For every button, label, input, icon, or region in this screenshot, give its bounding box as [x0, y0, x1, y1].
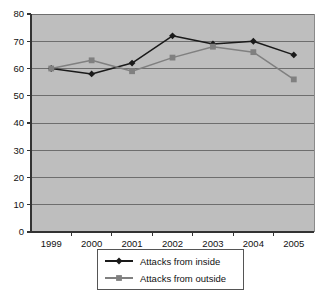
- legend: Attacks from insideAttacks from outside: [97, 249, 243, 289]
- x-tick-label-2002: 2002: [162, 238, 183, 249]
- y-tick-label-0: 0: [19, 226, 24, 237]
- y-tick-label-10: 10: [13, 199, 24, 210]
- data-point-2-2003: [210, 44, 216, 50]
- data-point-2-2004: [250, 49, 256, 55]
- line-chart: 0102030405060708019992000200120022003200…: [0, 0, 323, 293]
- data-point-2-2002: [170, 55, 176, 61]
- y-tick-label-70: 70: [13, 36, 24, 47]
- chart-canvas: 0102030405060708019992000200120022003200…: [0, 0, 323, 293]
- y-tick-label-50: 50: [13, 90, 24, 101]
- y-tick-label-30: 30: [13, 145, 24, 156]
- x-tick-label-2005: 2005: [283, 238, 304, 249]
- data-point-2-1999: [48, 66, 54, 72]
- x-tick-label-2003: 2003: [202, 238, 223, 249]
- legend-label-2: Attacks from outside: [140, 273, 226, 284]
- x-tick-label-2001: 2001: [122, 238, 143, 249]
- data-point-2-2001: [129, 68, 135, 74]
- data-point-2-2000: [89, 57, 95, 63]
- x-axis-ticks: 1999200020012002200320042005: [41, 232, 305, 249]
- y-tick-label-80: 80: [13, 8, 24, 19]
- x-tick-label-2000: 2000: [81, 238, 102, 249]
- y-tick-label-60: 60: [13, 63, 24, 74]
- x-tick-label-1999: 1999: [41, 238, 62, 249]
- y-tick-label-20: 20: [13, 172, 24, 183]
- legend-marker-square-icon: [116, 275, 122, 281]
- y-axis-ticks: 01020304050607080: [13, 8, 31, 237]
- data-point-2-2005: [291, 77, 297, 83]
- y-tick-label-40: 40: [13, 117, 24, 128]
- x-tick-label-2004: 2004: [243, 238, 264, 249]
- legend-label-1: Attacks from inside: [140, 256, 220, 267]
